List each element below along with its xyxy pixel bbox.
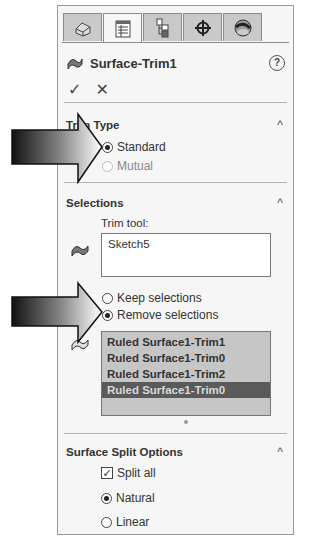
crosshair-icon [194,19,212,37]
mutual-label: Mutual [117,159,153,173]
callout-arrow-trim-type [0,108,110,190]
property-manager-icon [115,20,131,38]
trim-tool-label: Trim tool: [101,217,149,229]
radio-unselected-icon[interactable] [101,517,112,528]
linear-radio[interactable]: Linear [101,515,149,529]
natural-radio[interactable]: Natural [101,491,155,505]
ok-button[interactable]: ✓ [68,80,81,99]
tab-display-manager[interactable] [223,13,262,41]
tab-property-manager[interactable] [103,13,142,43]
keep-selections-radio[interactable]: Keep selections [102,291,202,305]
collapse-caret-icon[interactable]: ^ [277,118,283,132]
split-options-title: Surface Split Options [66,446,183,458]
section-divider [64,433,287,434]
list-item[interactable]: Ruled Surface1-Trim2 [102,366,270,382]
pieces-to-remove-list[interactable]: Ruled Surface1-Trim1 Ruled Surface1-Trim… [101,331,271,416]
radio-selected-icon[interactable] [101,493,112,504]
tab-feature-manager[interactable] [63,13,102,41]
split-options-header[interactable]: Surface Split Options ^ [66,443,283,461]
tab-divider [62,42,289,43]
appearance-sphere-icon [233,18,253,38]
split-all-label: Split all [117,466,156,480]
collapse-caret-icon[interactable]: ^ [277,196,283,210]
trim-tool-field[interactable]: Sketch5 [101,233,271,277]
resize-grip[interactable] [184,420,188,424]
natural-label: Natural [116,491,155,505]
list-item[interactable]: Ruled Surface1-Trim0 [102,350,270,366]
remove-selections-label: Remove selections [117,308,218,322]
cancel-button[interactable]: ✕ [95,80,108,99]
property-manager-panel: Surface-Trim1 ? ✓ ✕ Trim Type ^ Standard… [57,5,294,535]
remove-selections-radio[interactable]: Remove selections [102,308,218,322]
keep-selections-label: Keep selections [117,291,202,305]
confirm-row: ✓ ✕ [68,80,109,99]
surface-trim-icon [66,55,84,71]
linear-label: Linear [116,515,149,529]
manager-tabs [63,13,263,42]
configuration-icon [155,18,171,38]
list-item[interactable]: Ruled Surface1-Trim1 [102,334,270,350]
feature-title: Surface-Trim1 [90,56,177,71]
checkbox-checked-icon[interactable]: ✓ [101,467,113,479]
trim-type-standard-radio[interactable]: Standard [102,140,166,154]
selections-title: Selections [66,197,124,209]
feature-title-row: Surface-Trim1 ? [66,53,285,73]
section-divider [64,102,287,103]
tab-configuration-manager[interactable] [143,13,182,41]
help-icon[interactable]: ? [269,55,285,71]
selections-header[interactable]: Selections ^ [66,194,283,212]
feature-tree-icon [73,19,93,37]
trim-tool-icon [70,242,90,258]
collapse-caret-icon[interactable]: ^ [277,445,283,459]
callout-arrow-remove-selections [0,278,110,350]
split-all-checkbox[interactable]: ✓ Split all [101,466,156,480]
list-item-selected[interactable]: Ruled Surface1-Trim0 [102,382,270,398]
standard-label: Standard [117,140,166,154]
tab-dimxpert-manager[interactable] [183,13,222,41]
